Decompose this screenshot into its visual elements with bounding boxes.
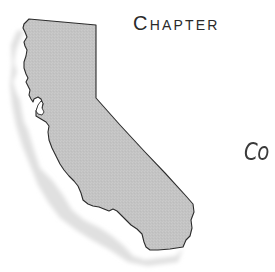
california-outline <box>23 19 194 250</box>
california-map-illustration <box>0 0 275 272</box>
chapter-heading: Chapter <box>133 13 220 33</box>
california-map-icon <box>0 0 275 272</box>
chapter-subtitle-fragment: Co <box>244 140 269 164</box>
